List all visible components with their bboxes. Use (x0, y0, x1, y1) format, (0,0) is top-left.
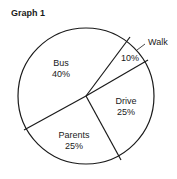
walk-leader-line (137, 44, 145, 50)
pie-chart: Bus 40% Walk 10% Drive 25% Parents 25% (0, 0, 177, 179)
label-walk-pct: 10% (121, 53, 139, 63)
label-parents: Parents (58, 130, 90, 140)
label-drive: Drive (115, 96, 136, 106)
label-drive-pct: 25% (117, 107, 135, 117)
label-parents-pct: 25% (65, 141, 83, 151)
label-walk: Walk (148, 37, 168, 47)
label-bus-pct: 40% (52, 69, 70, 79)
label-bus: Bus (53, 58, 69, 68)
